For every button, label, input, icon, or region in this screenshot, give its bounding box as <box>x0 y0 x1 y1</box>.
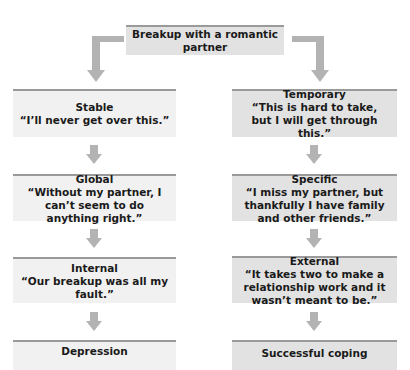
elbow-arrow-right-icon <box>292 36 332 86</box>
node-specific: Specific “I miss my partner, but thankfu… <box>232 174 397 221</box>
root-node: Breakup with a romantic partner <box>126 25 284 55</box>
node-external: External “It takes two to make a relatio… <box>232 256 397 303</box>
down-arrow-icon <box>306 145 322 165</box>
node-successful-coping: Successful coping <box>232 340 397 370</box>
down-arrow-icon <box>306 312 322 332</box>
elbow-arrow-left-icon <box>84 36 124 86</box>
node-title: Internal <box>71 262 118 275</box>
node-title: Specific <box>291 173 337 186</box>
node-global: Global “Without my partner, I can’t seem… <box>13 174 176 221</box>
node-temporary: Temporary “This is hard to take, but I w… <box>232 89 397 137</box>
node-quote: “I miss my partner, but thankfully I hav… <box>236 186 393 225</box>
node-title: Stable <box>76 101 114 114</box>
node-quote: “I’ll never get over this.” <box>20 114 170 127</box>
node-title: External <box>290 255 339 268</box>
node-quote: “Without my partner, I can’t seem to do … <box>17 186 172 225</box>
node-title: Successful coping <box>262 347 368 360</box>
down-arrow-icon <box>86 312 102 332</box>
down-arrow-icon <box>306 229 322 249</box>
root-label: Breakup with a romantic partner <box>130 28 280 54</box>
node-quote: “It takes two to make a relationship wor… <box>236 268 393 307</box>
node-internal: Internal “Our breakup was all my fault.” <box>13 257 176 303</box>
node-title: Global <box>76 173 114 186</box>
node-quote: “This is hard to take, but I will get th… <box>250 101 380 140</box>
node-title: Depression <box>61 345 127 358</box>
node-depression: Depression <box>13 340 176 370</box>
node-quote: “Our breakup was all my fault.” <box>17 275 172 301</box>
down-arrow-icon <box>86 229 102 249</box>
node-title: Temporary <box>283 88 346 101</box>
node-stable: Stable “I’ll never get over this.” <box>13 89 176 137</box>
down-arrow-icon <box>86 145 102 165</box>
